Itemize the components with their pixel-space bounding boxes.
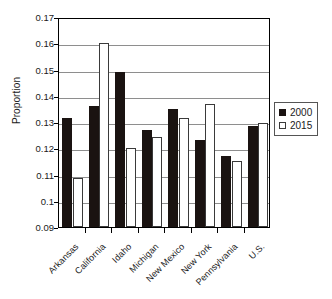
- y-axis-tick-label: 0.13: [24, 118, 54, 128]
- bar-group-container: [59, 19, 269, 227]
- x-axis-tick-label: Michigan: [68, 241, 160, 299]
- y-axis-tick-label: 0.11: [24, 171, 54, 181]
- bar-pennsylvania-2015: [232, 161, 242, 227]
- bar-new-york-2000: [195, 140, 205, 227]
- legend-item-2015: 2015: [279, 119, 312, 132]
- legend-label-2000: 2000: [290, 107, 312, 118]
- x-axis-tick-mark: [85, 228, 86, 233]
- bar-michigan-2000: [142, 130, 152, 227]
- x-axis-tick-label: U.S.: [174, 241, 266, 299]
- y-axis-tick-label: 0.09: [24, 223, 54, 233]
- bar-michigan-2015: [152, 137, 162, 227]
- bar-u-s-2015: [258, 123, 268, 227]
- y-axis-tick-mark: [54, 228, 58, 229]
- y-axis-tick-label: 0.15: [24, 66, 54, 76]
- y-axis-tick-mark: [54, 18, 58, 19]
- x-axis-tick-label: New Mexico: [95, 241, 187, 299]
- x-axis-tick-mark: [244, 228, 245, 233]
- bar-new-york-2015: [205, 104, 215, 227]
- bar-arkansas-2000: [62, 118, 72, 227]
- y-axis-tick-mark: [54, 97, 58, 98]
- chart-legend: 2000 2015: [274, 102, 318, 136]
- x-axis-tick-mark: [191, 228, 192, 233]
- bar-u-s-2000: [248, 126, 258, 227]
- y-axis-tick-mark: [54, 176, 58, 177]
- x-axis-tick-mark: [217, 228, 218, 233]
- y-axis-tick-label: 0.12: [24, 144, 54, 154]
- y-axis-tick-label: 0.17: [24, 13, 54, 23]
- x-axis-tick-label: New York: [121, 241, 213, 299]
- bar-california-2000: [89, 106, 99, 227]
- y-axis-tick-label: 0.14: [24, 92, 54, 102]
- legend-swatch-2015-icon: [279, 122, 286, 129]
- y-axis-tick-label: 0.1: [24, 197, 54, 207]
- bar-pennsylvania-2000: [221, 156, 231, 227]
- plot-area: [58, 18, 270, 228]
- x-axis-tick-mark: [111, 228, 112, 233]
- bar-california-2015: [99, 43, 109, 227]
- y-axis-tick-label: 0.16: [24, 39, 54, 49]
- bar-new-mexico-2015: [179, 118, 189, 227]
- y-axis-tick-mark: [54, 71, 58, 72]
- x-axis-tick-label: Pennsylvania: [148, 241, 240, 299]
- y-axis-tick-mark: [54, 123, 58, 124]
- y-axis-tick-mark: [54, 202, 58, 203]
- x-axis-tick-label: Idaho: [42, 241, 134, 299]
- legend-swatch-2000-icon: [279, 109, 286, 116]
- y-axis-tick-mark: [54, 149, 58, 150]
- bar-arkansas-2015: [73, 178, 83, 227]
- x-axis-tick-mark: [138, 228, 139, 233]
- y-axis-title: Proportion: [11, 51, 22, 151]
- bar-chart-figure: Proportion 0.170.160.150.140.130.120.110…: [0, 0, 332, 299]
- x-axis-tick-mark: [164, 228, 165, 233]
- y-axis-tick-mark: [54, 44, 58, 45]
- legend-item-2000: 2000: [279, 106, 312, 119]
- y-axis-tick-labels: 0.170.160.150.140.130.120.110.10.09: [22, 0, 54, 299]
- bar-new-mexico-2000: [168, 109, 178, 227]
- legend-label-2015: 2015: [290, 120, 312, 131]
- bar-idaho-2000: [115, 72, 125, 227]
- bar-idaho-2015: [126, 148, 136, 227]
